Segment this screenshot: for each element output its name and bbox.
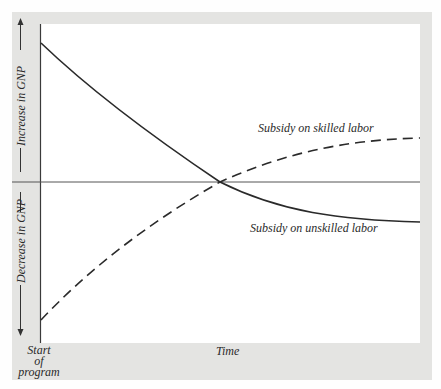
y-label-increase: Increase in GNP <box>14 66 29 146</box>
label-skilled: Subsidy on skilled labor <box>258 121 374 136</box>
up-arrow-icon <box>18 18 24 25</box>
x-label-start-line3: program <box>14 367 64 378</box>
label-unskilled: Subsidy on unskilled labor <box>250 221 378 236</box>
x-label-start: Start of program <box>14 345 64 378</box>
down-arrow-icon <box>18 329 24 336</box>
y-label-decrease: Decrease in GNP <box>14 199 29 283</box>
chart-svg <box>0 0 441 389</box>
x-label-time: Time <box>216 344 239 359</box>
